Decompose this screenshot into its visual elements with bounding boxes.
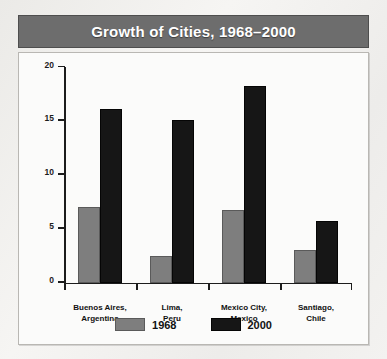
x-axis-separator-tick <box>280 284 282 290</box>
chart-legend: 19682000 <box>19 318 368 331</box>
bar-1968-1 <box>150 256 172 283</box>
x-axis-separator-tick <box>208 284 210 290</box>
chart-figure: Growth of Cities, 1968–2000 Population i… <box>0 0 387 359</box>
chart-title: Growth of Cities, 1968–2000 <box>91 23 296 40</box>
y-axis-tick-label: 20 <box>45 60 54 70</box>
x-axis-separator-tick <box>64 284 66 290</box>
chart-title-bar: Growth of Cities, 1968–2000 <box>18 15 369 48</box>
legend-label-1968: 1968 <box>152 319 176 331</box>
y-axis-tick: 0 <box>58 281 65 283</box>
legend-swatch-1968 <box>115 318 145 331</box>
bar-1968-3 <box>294 250 316 282</box>
y-axis-tick-label: 10 <box>45 167 54 177</box>
bar-2000-1 <box>172 120 194 283</box>
y-axis-line <box>64 67 66 284</box>
category-label-line: Santiago, <box>298 303 334 314</box>
y-axis-tick-label: 15 <box>45 113 54 123</box>
x-axis-separator-tick <box>351 284 353 290</box>
legend-item-1968: 1968 <box>115 318 176 331</box>
category-label-line: Buenos Aires, <box>73 303 127 314</box>
x-axis-separator-tick <box>136 284 138 290</box>
y-axis-tick: 15 <box>58 119 65 121</box>
bar-2000-3 <box>316 221 338 282</box>
bar-1968-0 <box>78 207 100 282</box>
y-axis-tick: 20 <box>58 66 65 68</box>
y-axis-tick: 5 <box>58 227 65 229</box>
chart-panel: Population in Millions 05101520 Buenos A… <box>18 52 369 345</box>
y-axis-tick-label: 0 <box>49 275 54 285</box>
legend-swatch-2000 <box>211 318 241 331</box>
bar-2000-2 <box>244 86 266 282</box>
bar-2000-0 <box>100 109 122 282</box>
category-label-line: Mexico City, <box>221 303 267 314</box>
y-axis-tick-label: 5 <box>49 221 54 231</box>
legend-label-2000: 2000 <box>248 319 272 331</box>
bar-1968-2 <box>222 210 244 282</box>
plot-area: 05101520 Buenos Aires,ArgentinaLima,Peru… <box>64 67 352 284</box>
y-axis-tick: 10 <box>58 173 65 175</box>
category-label-line: Lima, <box>162 303 183 314</box>
legend-item-2000: 2000 <box>211 318 272 331</box>
